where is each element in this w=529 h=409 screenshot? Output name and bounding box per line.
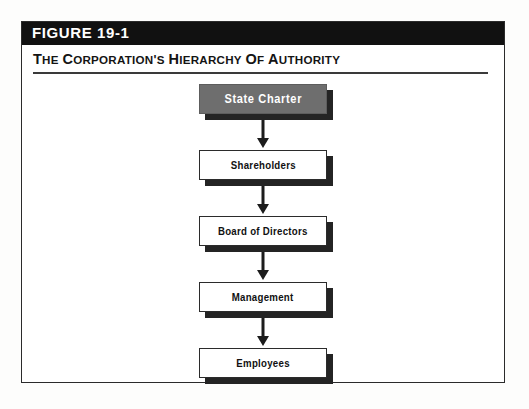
arrowhead-down-icon [257,336,269,346]
node-face: Shareholders [199,150,327,180]
arrowhead-down-icon [257,204,269,214]
node-management[interactable]: Management [199,282,327,312]
figure-frame: FIGURE 19-1 THE CORPORATION'S HIERARCHY … [21,21,505,383]
node-board-of-directors[interactable]: Board of Directors [199,216,327,246]
node-shareholders[interactable]: Shareholders [199,150,327,180]
figure-subtitle: THE CORPORATION'S HIERARCHY OF AUTHORITY [33,51,340,67]
arrowhead-down-icon [257,270,269,280]
node-label: Management [232,291,294,303]
edge-board-to-management [256,252,270,280]
node-label: Employees [236,357,290,369]
figure-header-bar: FIGURE 19-1 [22,22,504,45]
arrowhead-down-icon [257,138,269,148]
node-state-charter[interactable]: State Charter [199,84,327,114]
edge-stem [262,318,265,337]
edge-stem [262,186,265,205]
subtitle-divider [33,72,488,74]
edge-state-charter-to-shareholders [256,120,270,148]
hierarchy-diagram: State Charter Shareholders [22,78,504,384]
figure-number-label: FIGURE 19-1 [32,24,129,41]
node-face: Employees [199,348,327,378]
edge-stem [262,252,265,271]
edge-stem [262,120,265,139]
node-employees[interactable]: Employees [199,348,327,378]
edge-management-to-employees [256,318,270,346]
node-face: State Charter [199,84,327,114]
node-label: State Charter [224,92,302,106]
node-face: Management [199,282,327,312]
node-label: Shareholders [230,159,295,171]
page-background: FIGURE 19-1 THE CORPORATION'S HIERARCHY … [0,0,529,409]
edge-shareholders-to-board [256,186,270,214]
node-label: Board of Directors [218,225,308,237]
node-face: Board of Directors [199,216,327,246]
